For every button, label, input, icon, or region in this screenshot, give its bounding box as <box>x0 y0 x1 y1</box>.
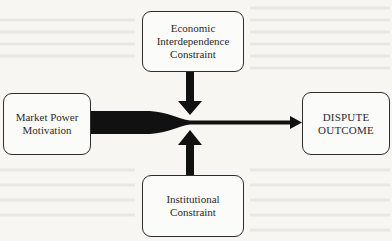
node-label-line: Motivation <box>16 124 79 137</box>
node-label-line: Constraint <box>166 206 219 219</box>
institutional-constraint-node: Institutional Constraint <box>142 175 244 237</box>
dispute-outcome-node: DISPUTE OUTCOME <box>302 92 390 155</box>
market-power-motivation-node: Market Power Motivation <box>3 93 91 155</box>
down-arrow <box>178 72 202 115</box>
node-label-line: OUTCOME <box>318 124 374 137</box>
economic-interdependence-constraint-node: Economic Interdependence Constraint <box>142 11 244 72</box>
node-label-line: DISPUTE <box>318 111 374 124</box>
node-label-line: Constraint <box>157 48 230 61</box>
node-label-line: Market Power <box>16 111 79 124</box>
main-tapering-arrow <box>91 111 302 134</box>
node-label-line: Institutional <box>166 193 219 206</box>
node-label-line: Economic <box>157 22 230 35</box>
up-arrow <box>178 130 202 175</box>
node-label-line: Interdependence <box>157 35 230 48</box>
